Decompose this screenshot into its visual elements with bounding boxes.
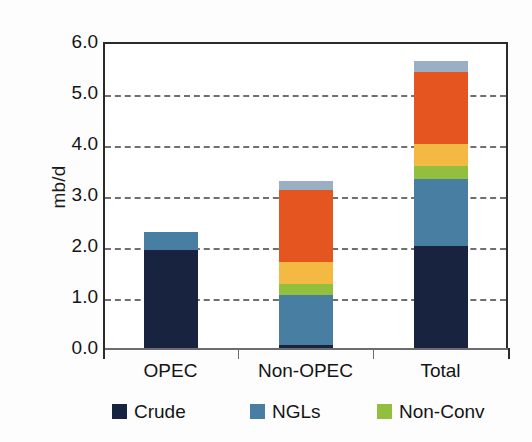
bar-segment-series4[interactable]	[414, 144, 468, 166]
legend-swatch-icon	[377, 404, 392, 419]
bars-layer	[103, 42, 508, 348]
x-axis-tick	[103, 348, 105, 359]
x-axis-tick	[373, 348, 374, 359]
bar-segment-crude[interactable]	[144, 250, 198, 348]
bar-segment-series6[interactable]	[414, 61, 468, 71]
y-axis-tick-labels: 6.05.04.03.02.01.00.0	[34, 0, 98, 442]
bar-total[interactable]	[414, 42, 468, 348]
y-tick-label: 4.0	[42, 134, 98, 153]
legend-swatch-icon	[112, 404, 127, 419]
bar-segment-series6[interactable]	[279, 181, 333, 190]
x-axis-tick	[238, 348, 239, 359]
x-axis-tick	[508, 348, 510, 359]
bar-segment-non-conv[interactable]	[279, 284, 333, 296]
x-axis-line	[103, 348, 510, 350]
legend-swatch-icon	[250, 404, 265, 419]
bar-segment-crude[interactable]	[414, 246, 468, 348]
legend-label: Non-Conv	[399, 402, 485, 421]
y-tick-label: 0.0	[42, 338, 98, 357]
legend-label: Crude	[134, 402, 186, 421]
bar-segment-ngls[interactable]	[144, 232, 198, 250]
chart-legend: CrudeNGLsNon-Conv	[0, 402, 532, 442]
bar-opec[interactable]	[144, 42, 198, 348]
bar-segment-ngls[interactable]	[279, 295, 333, 345]
bar-segment-non-conv[interactable]	[414, 166, 468, 179]
legend-label: NGLs	[272, 402, 321, 421]
bar-segment-series4[interactable]	[279, 262, 333, 283]
y-tick-label: 6.0	[42, 32, 98, 51]
bar-segment-crude[interactable]	[279, 345, 333, 348]
x-axis-label-total: Total	[361, 360, 521, 382]
bar-segment-ngls[interactable]	[414, 179, 468, 246]
y-tick-label: 1.0	[42, 287, 98, 306]
y-tick-label: 5.0	[42, 83, 98, 102]
bar-non-opec[interactable]	[279, 42, 333, 348]
y-tick-label: 3.0	[42, 185, 98, 204]
legend-item-non-conv[interactable]: Non-Conv	[377, 402, 485, 421]
bar-segment-series5[interactable]	[279, 190, 333, 262]
legend-item-crude[interactable]: Crude	[112, 402, 186, 421]
bar-segment-series5[interactable]	[414, 72, 468, 144]
legend-item-ngls[interactable]: NGLs	[250, 402, 321, 421]
y-tick-label: 2.0	[42, 236, 98, 255]
stacked-bar-chart: mb/d 6.05.04.03.02.01.00.0 CrudeNGLsNon-…	[0, 0, 532, 442]
